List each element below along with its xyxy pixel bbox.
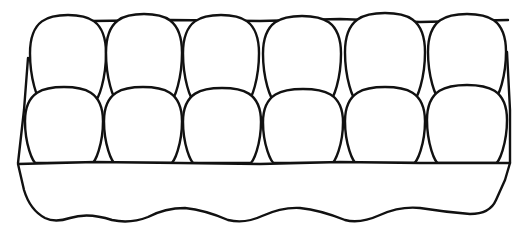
front-row-egg-5 bbox=[345, 87, 425, 163]
carton-right-side bbox=[507, 52, 510, 163]
egg-carton-svg bbox=[0, 0, 525, 241]
front-row-egg-4 bbox=[263, 89, 343, 163]
back-row-egg-4 bbox=[263, 16, 341, 100]
front-row-egg-3 bbox=[183, 88, 261, 163]
front-row-egg-2 bbox=[104, 87, 182, 163]
carton-front-panel bbox=[18, 162, 510, 221]
egg-carton-drawing bbox=[0, 0, 525, 241]
front-row-egg-6 bbox=[427, 85, 507, 163]
front-row-egg-1 bbox=[25, 87, 103, 163]
back-row-eggs bbox=[30, 13, 506, 100]
